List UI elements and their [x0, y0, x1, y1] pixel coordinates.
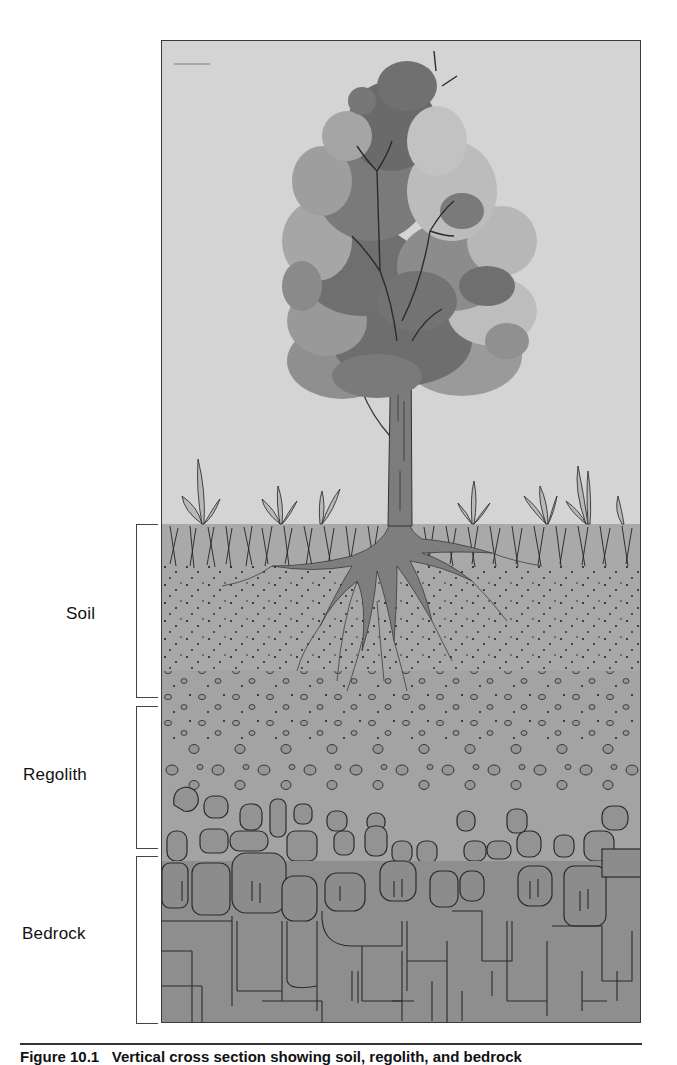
caption-text: Vertical cross section showing soil, reg… [112, 1048, 522, 1065]
figure-caption: Figure 10.1 Vertical cross section showi… [20, 1048, 522, 1065]
cross-section-drawing [162, 41, 641, 1023]
caption-rule [20, 1043, 642, 1045]
regolith-label: Regolith [23, 765, 87, 785]
soil-label: Soil [66, 604, 95, 624]
regolith-bracket [136, 706, 158, 849]
bedrock-layer [162, 849, 641, 1023]
soil-bracket [136, 524, 158, 698]
caption-number: Figure 10.1 [20, 1048, 99, 1065]
bedrock-label: Bedrock [22, 924, 86, 944]
soil-profile-illustration [161, 40, 641, 1023]
bedrock-bracket [136, 856, 158, 1024]
